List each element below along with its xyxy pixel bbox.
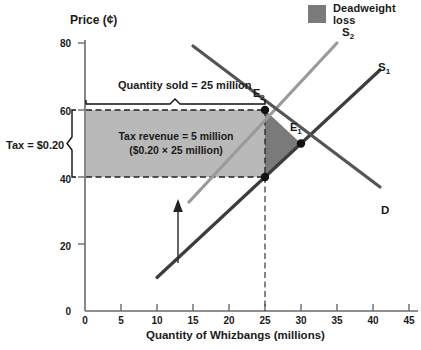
curve-label-s1: S1 <box>378 62 390 76</box>
curve-label-s2: S2 <box>342 27 354 41</box>
tax-revenue-label: Tax revenue = 5 million ($0.20 × 25 mill… <box>96 129 256 157</box>
tax-bracket-icon <box>67 110 76 177</box>
curve-label-d: D <box>381 205 389 217</box>
economics-supply-demand-chart: Deadweight loss Price (¢) Quantity of Wh… <box>0 0 421 350</box>
tax-revenue-line-1: Tax revenue = 5 million <box>96 129 256 143</box>
quantity-sold-bracket <box>86 99 265 104</box>
point-supply-price-after-tax <box>261 173 269 181</box>
point-label-e1: E1 <box>290 122 302 136</box>
y-tick-marks <box>78 43 85 244</box>
point-label-e2: E2 <box>253 88 265 102</box>
quantity-sold-label: Quantity sold = 25 million <box>118 80 252 91</box>
plot-canvas <box>0 0 421 350</box>
point-e1 <box>297 139 305 147</box>
point-e2 <box>261 106 269 114</box>
tax-revenue-line-2: ($0.20 × 25 million) <box>96 143 256 157</box>
tax-amount-label: Tax = $0.20 <box>6 140 64 151</box>
